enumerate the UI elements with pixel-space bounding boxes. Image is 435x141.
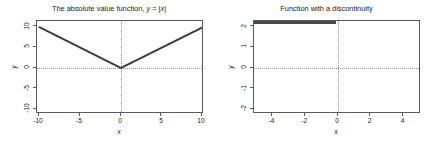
xtick-mark: [79, 113, 80, 116]
xtick-mark: [337, 113, 338, 116]
panel-title-absolute-value: The absolute value function, y = |x|: [0, 4, 218, 14]
panel-title-suffix: |: [164, 4, 166, 13]
x-axis-title: x: [117, 128, 121, 136]
xtick-label: 0: [118, 117, 122, 125]
y-axis-title: y: [227, 65, 235, 69]
panel-title-text-prefix: The absolute value function,: [52, 4, 147, 13]
xtick-label: -2: [301, 117, 307, 125]
data-line-right-arm: [120, 26, 202, 68]
two-panel-figure: The absolute value function, y = |x| -10…: [0, 0, 435, 141]
ytick-label: 10: [23, 22, 31, 29]
ytick-mark: [250, 46, 253, 47]
xtick-mark: [271, 113, 272, 116]
xtick-mark: [201, 113, 202, 116]
xtick-mark: [304, 113, 305, 116]
ytick-label: -5: [23, 85, 31, 91]
xtick-label: 0: [335, 117, 339, 125]
data-line-left-arm: [38, 26, 121, 68]
panel-title-discontinuity: Function with a discontinuity: [218, 4, 435, 14]
xtick-label: -4: [269, 117, 275, 125]
ytick-mark: [33, 87, 36, 88]
ytick-label: 5: [23, 44, 31, 48]
ytick-mark: [33, 108, 36, 109]
ytick-mark: [250, 87, 253, 88]
ytick-label: -1: [240, 85, 248, 91]
panel-title-equals: = |: [150, 4, 160, 13]
xtick-mark: [160, 113, 161, 116]
ytick-label: 2: [240, 24, 248, 28]
ytick-label: 0: [240, 65, 248, 69]
ytick-mark: [33, 25, 36, 26]
ytick-mark: [33, 46, 36, 47]
xtick-label: 10: [197, 117, 204, 125]
plot-inner-absolute-value: [37, 21, 202, 112]
xtick-mark: [120, 113, 121, 116]
xtick-mark: [402, 113, 403, 116]
panel-discontinuity: Function with a discontinuity -4 -2 0 2 …: [218, 0, 435, 141]
ytick-mark: [250, 108, 253, 109]
plot-area-absolute-value: [36, 20, 203, 113]
plot-inner-discontinuity: [254, 21, 419, 112]
ytick-label: -10: [23, 103, 31, 113]
ytick-label: 1: [240, 44, 248, 48]
xtick-label: -5: [76, 117, 82, 125]
xtick-mark: [38, 113, 39, 116]
ytick-label: 0: [23, 65, 31, 69]
x-axis-title: x: [334, 128, 338, 136]
reference-line-y-zero: [254, 68, 419, 69]
xtick-label: 5: [159, 117, 163, 125]
reference-line-x-zero: [338, 21, 339, 112]
xtick-label: -10: [33, 117, 43, 125]
ytick-mark: [250, 25, 253, 26]
ytick-mark: [33, 67, 36, 68]
y-axis-title: y: [10, 65, 18, 69]
ytick-mark: [250, 67, 253, 68]
plot-area-discontinuity: [253, 20, 420, 113]
ytick-label: -2: [240, 105, 248, 111]
xtick-label: 2: [368, 117, 372, 125]
panel-absolute-value: The absolute value function, y = |x| -10…: [0, 0, 218, 141]
xtick-label: 4: [401, 117, 405, 125]
xtick-mark: [369, 113, 370, 116]
data-segment-right-branch: [254, 23, 336, 25]
